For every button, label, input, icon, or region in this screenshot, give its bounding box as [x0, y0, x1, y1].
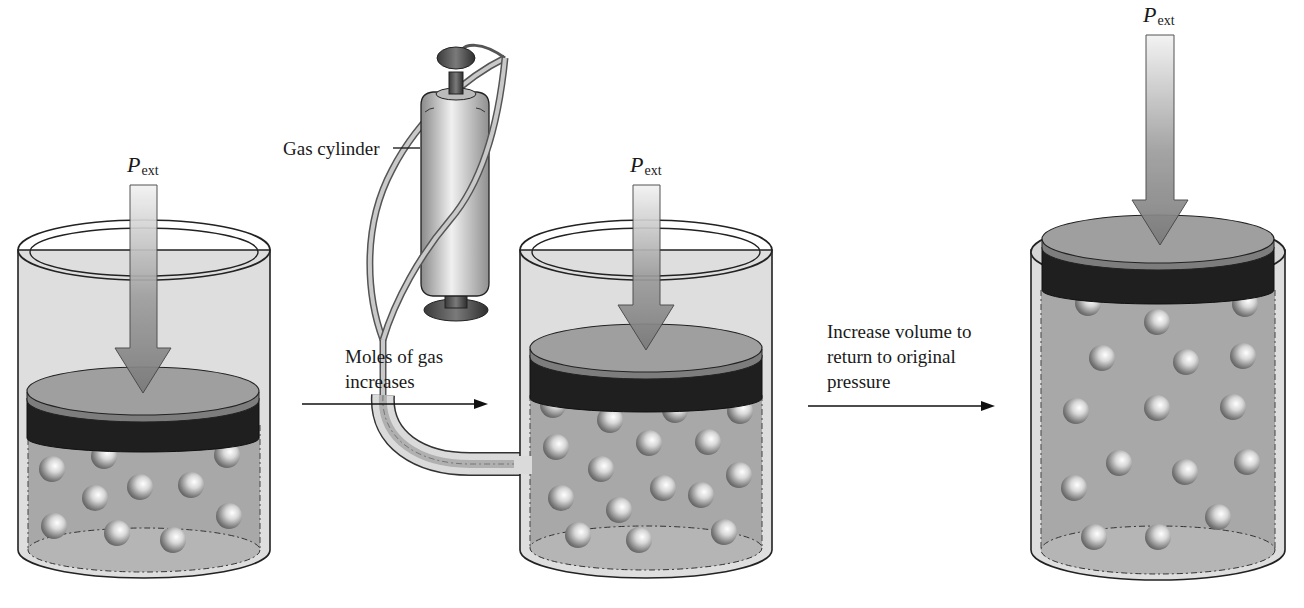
transition-label-1: Moles of gas increases — [345, 344, 443, 394]
cylinder-initial — [18, 185, 270, 578]
cylinder-gas-added — [514, 185, 772, 578]
transition-1-line-1: Moles of gas — [345, 344, 443, 369]
pressure-arrow — [1132, 35, 1188, 245]
transition-2-line-1: Increase volume to — [827, 319, 972, 344]
cylinder-expanded — [1031, 35, 1285, 580]
pressure-label-gas-added: Pext — [630, 152, 662, 179]
gas-law-diagram — [0, 0, 1304, 608]
transition-2-line-3: pressure — [827, 369, 972, 394]
pressure-label-expanded: Pext — [1143, 2, 1175, 29]
transition-1-line-2: increases — [345, 369, 443, 394]
transition-label-2: Increase volume to return to original pr… — [827, 319, 972, 394]
transition-2-line-2: return to original — [827, 344, 972, 369]
gas-cylinder-label: Gas cylinder — [283, 136, 380, 161]
transition-arrow-2 — [808, 401, 995, 411]
gas-cylinder-pump — [421, 47, 489, 321]
pressure-label-initial: Pext — [127, 152, 159, 179]
